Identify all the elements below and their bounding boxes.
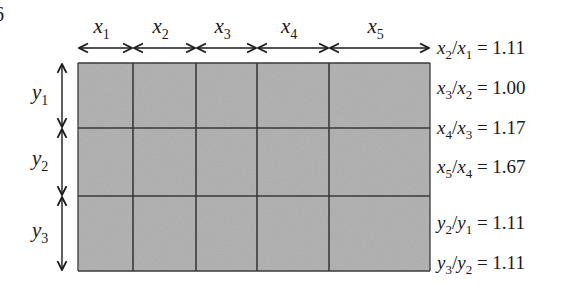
ratio-4: x5/x4 = 1.67 xyxy=(437,157,526,176)
ratio-6: y3/y2 = 1.11 xyxy=(437,253,525,272)
x-label-2: x2 xyxy=(153,16,169,37)
y-label-1: y1 xyxy=(32,82,48,103)
ratio-5: y2/y1 = 1.11 xyxy=(437,213,525,232)
x-label-4: x4 xyxy=(281,16,297,37)
x-label-5: x5 xyxy=(368,16,384,37)
grid xyxy=(78,63,430,271)
y-label-3: y3 xyxy=(32,220,48,241)
x-label-3: x3 xyxy=(215,16,231,37)
y-label-2: y2 xyxy=(32,148,48,169)
x-label-1: x1 xyxy=(94,16,110,37)
ratio-2: x3/x2 = 1.00 xyxy=(437,78,526,97)
ratio-1: x2/x1 = 1.11 xyxy=(437,38,525,57)
ratio-3: x4/x3 = 1.17 xyxy=(437,118,526,137)
